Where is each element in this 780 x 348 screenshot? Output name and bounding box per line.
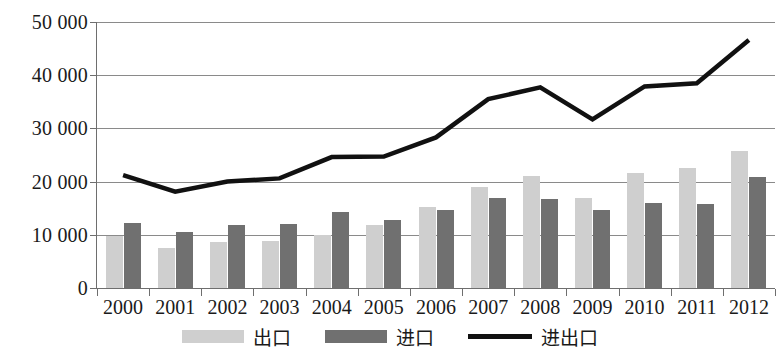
total-line-path <box>123 40 749 192</box>
x-axis-tick <box>723 289 724 296</box>
x-axis-tick <box>358 289 359 296</box>
y-axis-label: 40 000 <box>0 64 88 87</box>
y-axis-label: 50 000 <box>0 11 88 34</box>
x-axis-label-2007: 2007 <box>468 296 508 319</box>
chart-legend: 出口 进口 进出口 <box>0 325 780 348</box>
x-axis-tick <box>306 289 307 296</box>
x-axis-labels: 2000200120022003200420052006200720082009… <box>0 296 780 326</box>
x-axis-tick <box>201 289 202 296</box>
y-axis-tick <box>90 128 97 129</box>
legend-item-total[interactable]: 进出口 <box>468 323 598 348</box>
bar-light-swatch <box>182 330 244 343</box>
x-axis-label-2001: 2001 <box>155 296 195 319</box>
bar-dark-swatch <box>325 330 387 343</box>
x-axis-tick <box>619 289 620 296</box>
x-axis-tick <box>671 289 672 296</box>
x-axis-label-2011: 2011 <box>677 296 716 319</box>
x-axis-tick <box>149 289 150 296</box>
x-axis-tick <box>514 289 515 296</box>
x-axis-tick <box>566 289 567 296</box>
y-axis-label: 30 000 <box>0 117 88 140</box>
legend-label-import: 进口 <box>396 323 434 348</box>
legend-item-import[interactable]: 进口 <box>325 323 434 348</box>
x-axis-tick <box>253 289 254 296</box>
x-axis-label-2003: 2003 <box>260 296 300 319</box>
y-axis-label: 10 000 <box>0 223 88 246</box>
x-axis-label-2009: 2009 <box>572 296 612 319</box>
x-axis-label-2012: 2012 <box>729 296 769 319</box>
x-axis-tick <box>775 289 776 296</box>
x-axis-tick <box>410 289 411 296</box>
y-axis-tick <box>90 235 97 236</box>
line-series-layer <box>97 22 775 288</box>
x-axis-label-2010: 2010 <box>625 296 665 319</box>
chart-container: 010 00020 00030 00040 00050 000 20002001… <box>0 0 780 348</box>
x-axis-label-2002: 2002 <box>207 296 247 319</box>
x-axis-label-2008: 2008 <box>520 296 560 319</box>
x-axis-tick <box>97 289 98 296</box>
x-axis-tick <box>462 289 463 296</box>
y-axis-line <box>96 22 97 289</box>
line-swatch <box>468 334 532 339</box>
legend-label-export: 出口 <box>253 323 291 348</box>
y-axis-tick <box>90 75 97 76</box>
legend-item-export[interactable]: 出口 <box>182 323 291 348</box>
plot-area <box>97 22 775 288</box>
x-axis-label-2000: 2000 <box>103 296 143 319</box>
y-axis-tick <box>90 182 97 183</box>
x-axis-label-2004: 2004 <box>312 296 352 319</box>
x-axis-label-2005: 2005 <box>364 296 404 319</box>
y-axis-tick <box>90 22 97 23</box>
x-axis-line <box>97 288 775 289</box>
y-axis-label: 20 000 <box>0 170 88 193</box>
x-axis-label-2006: 2006 <box>416 296 456 319</box>
y-axis-tick <box>90 288 97 289</box>
legend-label-total: 进出口 <box>541 323 598 348</box>
